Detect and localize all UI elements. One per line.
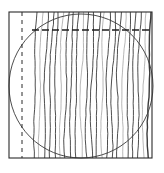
interferogram-diagram (0, 0, 164, 173)
